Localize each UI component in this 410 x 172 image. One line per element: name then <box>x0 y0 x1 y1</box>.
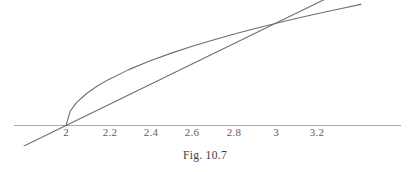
tick-label-2-8: 2.8 <box>227 127 241 138</box>
tick-label-2-2: 2.2 <box>103 127 117 138</box>
tick-label-2-4: 2.4 <box>144 127 158 138</box>
sqrt-curve <box>66 4 361 125</box>
figure-caption: Fig. 10.7 <box>0 150 410 162</box>
secant-line <box>18 0 361 146</box>
tick-label-2: 2 <box>63 127 69 138</box>
tick-label-3: 3 <box>273 127 279 138</box>
plot-canvas <box>0 0 410 146</box>
tick-label-3-2: 3.2 <box>310 127 324 138</box>
figure-container: 2 2.2 2.4 2.6 2.8 3 3.2 Fig. 10.7 <box>0 0 410 172</box>
tick-label-2-6: 2.6 <box>185 127 199 138</box>
